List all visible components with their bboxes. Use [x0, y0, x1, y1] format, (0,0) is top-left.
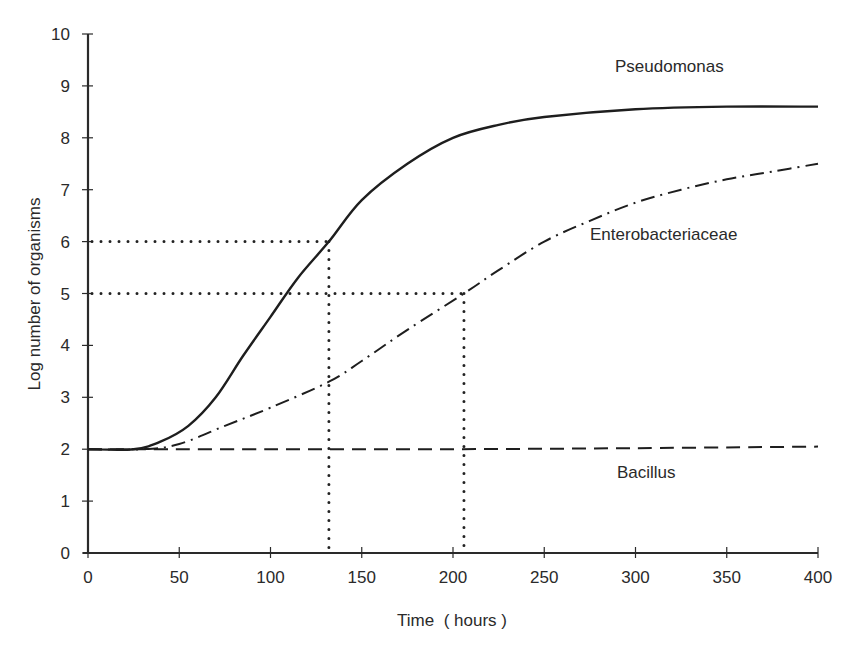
y-tick-label: 9	[61, 77, 70, 96]
x-tick-label: 200	[439, 568, 467, 587]
x-tick-label: 50	[170, 568, 189, 587]
x-tick-label: 150	[348, 568, 376, 587]
growth-chart: 012345678910050100150200250300350400 Pse…	[0, 0, 855, 655]
y-tick-label: 1	[61, 492, 70, 511]
y-tick-label: 4	[61, 336, 70, 355]
series-line-pseudomonas	[88, 106, 818, 449]
y-tick-label: 8	[61, 129, 70, 148]
x-tick-label: 250	[530, 568, 558, 587]
series-label-bacillus: Bacillus	[617, 463, 676, 482]
y-tick-label: 6	[61, 233, 70, 252]
y-tick-label: 7	[61, 181, 70, 200]
y-tick-label: 0	[61, 544, 70, 563]
x-tick-label: 350	[713, 568, 741, 587]
y-tick-label: 2	[61, 440, 70, 459]
series-line-bacillus	[88, 447, 818, 450]
y-tick-label: 10	[51, 25, 70, 44]
y-axis-title: Log number of organisms	[25, 198, 44, 391]
x-axis-title: Time ( hours )	[397, 611, 507, 630]
series-line-enterobacteriaceae	[88, 164, 818, 450]
reference-lines	[92, 242, 464, 553]
y-tick-label: 3	[61, 388, 70, 407]
series-label-pseudomonas: Pseudomonas	[615, 57, 724, 76]
x-tick-label: 300	[621, 568, 649, 587]
x-tick-label: 400	[804, 568, 832, 587]
series-labels: PseudomonasEnterobacteriaceaeBacillus	[590, 57, 737, 482]
axes: 012345678910050100150200250300350400	[51, 25, 832, 587]
x-tick-label: 100	[256, 568, 284, 587]
x-tick-label: 0	[83, 568, 92, 587]
y-tick-label: 5	[61, 285, 70, 304]
series-label-enterobacteriaceae: Enterobacteriaceae	[590, 225, 737, 244]
series-lines	[88, 106, 818, 449]
